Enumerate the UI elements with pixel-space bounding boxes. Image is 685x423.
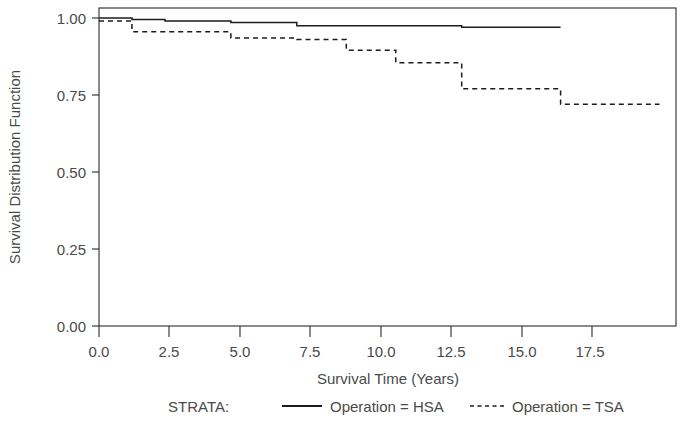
series-line-tsa bbox=[99, 21, 660, 104]
legend-label-tsa: Operation = TSA bbox=[512, 398, 624, 415]
chart-svg: 1.00 0.75 0.50 0.25 0.00 0.0 2.5 5.0 7.5… bbox=[0, 0, 685, 423]
y-tick-label-1: 1.00 bbox=[57, 10, 86, 27]
x-axis-ticks bbox=[99, 326, 592, 337]
x-tick-label-5: 10.0 bbox=[366, 343, 395, 360]
survival-chart-figure: 1.00 0.75 0.50 0.25 0.00 0.0 2.5 5.0 7.5… bbox=[0, 0, 685, 423]
x-tick-label-2: 2.5 bbox=[159, 343, 180, 360]
y-axis-tick-labels: 1.00 0.75 0.50 0.25 0.00 bbox=[57, 10, 86, 335]
x-tick-label-4: 7.5 bbox=[300, 343, 321, 360]
x-axis-tick-labels: 0.0 2.5 5.0 7.5 10.0 12.5 15.0 17.5 bbox=[89, 343, 605, 360]
legend-prefix-label: STRATA: bbox=[168, 398, 229, 415]
x-tick-label-1: 0.0 bbox=[89, 343, 110, 360]
x-tick-label-7: 15.0 bbox=[507, 343, 536, 360]
chart-legend: STRATA: Operation = HSA Operation = TSA bbox=[168, 398, 624, 415]
y-axis-ticks bbox=[92, 18, 99, 326]
y-tick-label-5: 0.00 bbox=[57, 318, 86, 335]
x-tick-label-6: 12.5 bbox=[436, 343, 465, 360]
plot-frame bbox=[99, 8, 676, 326]
y-tick-label-3: 0.50 bbox=[57, 164, 86, 181]
y-axis-title: Survival Distribution Function bbox=[6, 70, 23, 264]
y-tick-label-4: 0.25 bbox=[57, 241, 86, 258]
series-line-hsa bbox=[99, 18, 561, 27]
x-axis-title: Survival Time (Years) bbox=[317, 370, 459, 387]
x-tick-label-8: 17.5 bbox=[575, 343, 604, 360]
legend-label-hsa: Operation = HSA bbox=[330, 398, 444, 415]
x-tick-label-3: 5.0 bbox=[230, 343, 251, 360]
data-curves bbox=[99, 18, 660, 104]
y-tick-label-2: 0.75 bbox=[57, 87, 86, 104]
